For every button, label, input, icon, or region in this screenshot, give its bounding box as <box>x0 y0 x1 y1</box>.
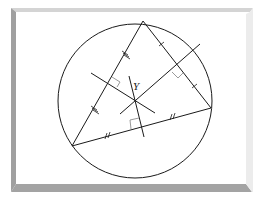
circumcircle-diagram: Y <box>0 0 263 199</box>
diagram-frame: Y <box>0 0 263 199</box>
bevel-frame <box>0 0 263 199</box>
